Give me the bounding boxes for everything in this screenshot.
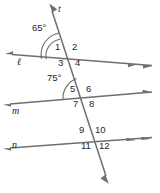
- angle-number-7: 7: [73, 99, 78, 109]
- line-label-t: t: [58, 4, 61, 14]
- angle-number-2: 2: [72, 42, 77, 52]
- diagram-canvas: [0, 0, 160, 193]
- angle-number-10: 10: [95, 125, 106, 135]
- angle-number-6: 6: [86, 84, 91, 94]
- line-n-left-arrowhead: [3, 148, 11, 151]
- angle-measure-65: 65°: [32, 23, 46, 33]
- line-label-l: ℓ: [17, 57, 21, 67]
- line-label-m: m: [12, 106, 19, 116]
- angle-number-8: 8: [89, 99, 94, 109]
- line-m-left-arrowhead: [3, 104, 11, 107]
- line-t-top-arrowhead: [49, 4, 57, 13]
- line-n: [3, 137, 152, 151]
- angle-number-1: 1: [55, 42, 60, 52]
- line-t-bottom-arrowhead: [101, 175, 109, 184]
- angle-number-3: 3: [58, 58, 63, 68]
- angle-number-11: 11: [81, 141, 91, 151]
- angle-number-12: 12: [99, 141, 110, 151]
- angle-measure-75: 75°: [47, 73, 61, 83]
- angle-number-4: 4: [75, 58, 80, 68]
- line-t-transversal: [49, 4, 109, 184]
- line-l-left-arrowhead: [5, 51, 13, 54]
- geometry-figure: t ℓ m n 65° 75° 1 2 3 4 5 6 7 8 9 10 11 …: [0, 0, 160, 193]
- angle-number-9: 9: [79, 125, 84, 135]
- line-label-n: n: [12, 140, 17, 150]
- angle-number-5: 5: [70, 84, 75, 94]
